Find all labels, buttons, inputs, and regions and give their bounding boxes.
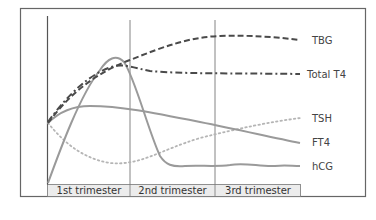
trimester-label-2: 2nd trimester xyxy=(138,185,207,196)
hormone-pregnancy-chart: 1st trimester 2nd trimester 3rd trimeste… xyxy=(0,0,376,220)
trimester-label-1: 1st trimester xyxy=(57,185,123,196)
legend-hcg: hCG xyxy=(312,161,333,172)
legend-total-t4: Total T4 xyxy=(306,69,346,80)
legend-tsh: TSH xyxy=(311,113,332,124)
trimester-label-3: 3rd trimester xyxy=(225,185,292,196)
trimester-bar: 1st trimester 2nd trimester 3rd trimeste… xyxy=(48,185,301,197)
legend-tbg: TBG xyxy=(311,35,333,46)
legend-ft4: FT4 xyxy=(312,137,330,148)
